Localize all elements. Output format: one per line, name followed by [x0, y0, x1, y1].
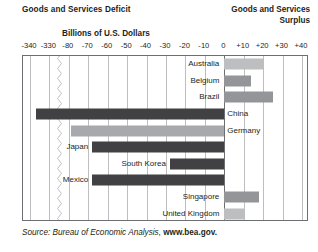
bar-china: [36, 109, 224, 120]
x-tick--330: -330: [41, 41, 56, 50]
bar-row: Mexico: [23, 172, 307, 189]
bar-label-australia: Australia: [188, 59, 219, 69]
deficit-heading: Goods and Services Deficit: [22, 5, 131, 14]
bar-singapore: [224, 192, 259, 203]
bar-row: Singapore: [23, 189, 307, 206]
bar-label-germany: Germany: [227, 126, 260, 136]
bar-row: Japan: [23, 139, 307, 156]
x-tick--80: -80: [62, 41, 73, 50]
source-note: Source: Bureau of Economic Analysis, www…: [22, 228, 217, 237]
x-tick--60: -60: [101, 41, 112, 50]
x-tick-+10: +10: [236, 41, 249, 50]
plot-area: AustraliaBelgiumBrazilChinaGermanyJapanS…: [22, 55, 308, 221]
bar-label-south-korea: South Korea: [121, 159, 165, 169]
x-tick--50: -50: [121, 41, 132, 50]
x-tick--340: -340: [21, 41, 36, 50]
x-tick--40: -40: [140, 41, 151, 50]
bar-mexico: [92, 175, 224, 186]
bar-label-brazil: Brazil: [199, 92, 219, 102]
bar-row: Australia: [23, 56, 307, 73]
bar-australia: [224, 59, 263, 70]
bar-rows: AustraliaBelgiumBrazilChinaGermanyJapanS…: [23, 56, 307, 220]
bar-south-korea: [170, 158, 224, 169]
chart-figure: Goods and Services Deficit Goods and Ser…: [0, 0, 318, 252]
source-url: www.bea.gov.: [163, 228, 217, 237]
bar-brazil: [224, 92, 273, 103]
bar-row: United Kingdom: [23, 205, 307, 222]
bar-japan: [92, 142, 224, 153]
x-tick-+20: +20: [256, 41, 269, 50]
bar-row: South Korea: [23, 156, 307, 173]
bar-label-belgium: Belgium: [190, 76, 219, 86]
x-axis-tick-labels: -340-330-80-70-60-50-40-30-20-100+10+20+…: [0, 41, 318, 53]
x-tick--10: -10: [198, 41, 209, 50]
x-tick-+30: +30: [275, 41, 288, 50]
axis-title: Billions of U.S. Dollars: [0, 29, 212, 38]
bar-row: Belgium: [23, 73, 307, 90]
bar-label-mexico: Mexico: [63, 175, 88, 185]
x-tick-0: 0: [221, 41, 225, 50]
bar-row: Germany: [23, 122, 307, 139]
surplus-heading-line1: Goods and Services: [231, 5, 310, 14]
surplus-heading-line2: Surplus: [280, 16, 310, 25]
bar-label-singapore: Singapore: [183, 192, 219, 202]
surplus-heading: Goods and Services Surplus: [231, 5, 310, 26]
x-tick--20: -20: [179, 41, 190, 50]
bar-germany: [71, 125, 224, 136]
bar-row: Brazil: [23, 89, 307, 106]
x-tick--70: -70: [82, 41, 93, 50]
x-tick--30: -30: [160, 41, 171, 50]
bar-label-united-kingdom: United Kingdom: [162, 209, 219, 219]
bar-label-japan: Japan: [66, 142, 88, 152]
bar-label-china: China: [227, 109, 248, 119]
bar-united-kingdom: [224, 208, 243, 219]
bar-belgium: [224, 75, 251, 86]
x-tick-+40: +40: [295, 41, 308, 50]
bar-row: China: [23, 106, 307, 123]
source-prefix: Source: Bureau of Economic Analysis,: [22, 228, 163, 237]
